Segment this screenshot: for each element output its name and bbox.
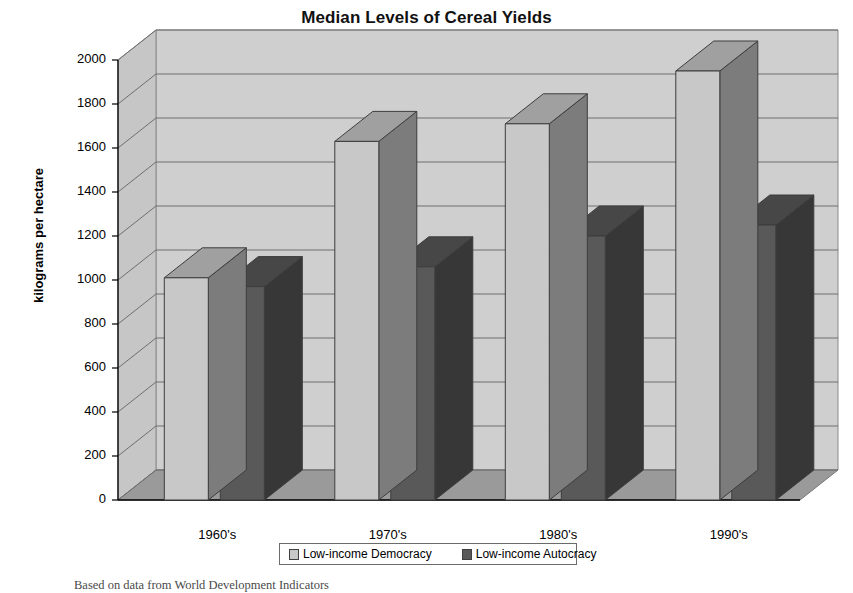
legend-item-democracy: Low-income Democracy — [289, 547, 432, 561]
chart-legend: Low-income Democracy Low-income Autocrac… — [279, 543, 577, 565]
x-axis-tick-label: 1990's — [669, 527, 789, 542]
y-axis-title: kilograms per hectare — [31, 136, 46, 336]
y-axis-tick-label: 600 — [54, 361, 106, 373]
y-axis-tick-label: 200 — [54, 449, 106, 461]
legend-label-autocracy: Low-income Autocracy — [476, 547, 597, 561]
y-axis-tick-label: 1800 — [54, 97, 106, 109]
chart-svg — [0, 0, 853, 593]
y-axis-tick-label: 1400 — [54, 185, 106, 197]
figure-caption: Based on data from World Development Ind… — [74, 578, 834, 593]
x-axis-tick-label: 1970's — [328, 527, 448, 542]
y-axis-tick-label: 400 — [54, 405, 106, 417]
legend-swatch-autocracy — [462, 549, 472, 560]
plot-area: 0200400600800100012001400160018002000 ki… — [0, 0, 853, 593]
x-axis-tick-label: 1960's — [157, 527, 277, 542]
y-axis-tick-label: 2000 — [54, 53, 106, 65]
y-axis-tick-label: 0 — [54, 493, 106, 505]
x-axis-tick-label: 1980's — [498, 527, 618, 542]
chart-figure: Median Levels of Cereal Yields 020040060… — [0, 0, 853, 593]
y-axis-tick-label: 1600 — [54, 141, 106, 153]
axis-ticks — [112, 60, 118, 500]
legend-swatch-democracy — [289, 549, 299, 560]
y-axis-tick-label: 1200 — [54, 229, 106, 241]
legend-item-autocracy: Low-income Autocracy — [462, 547, 597, 561]
y-axis-tick-label: 800 — [54, 317, 106, 329]
legend-label-democracy: Low-income Democracy — [303, 547, 432, 561]
y-axis-tick-label: 1000 — [54, 273, 106, 285]
